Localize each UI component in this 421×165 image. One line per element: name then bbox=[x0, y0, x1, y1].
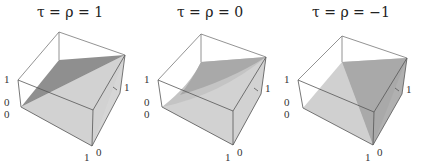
panel-comonotonic: τ = ρ = 1 1 0 0 1 0 1 bbox=[0, 0, 140, 165]
surface-plot: 1 0 0 1 0 1 bbox=[281, 0, 421, 165]
x-tick-0: 0 bbox=[284, 108, 290, 120]
surface-plot: 1 0 0 1 0 1 bbox=[140, 0, 280, 165]
y-tick-1: 1 bbox=[265, 82, 271, 94]
z-tick-0: 0 bbox=[4, 96, 10, 108]
panel-independence: τ = ρ = 0 1 0 0 1 0 1 bbox=[140, 0, 280, 165]
z-tick-1: 1 bbox=[4, 73, 10, 85]
panel-countermonotonic: τ = ρ = −1 1 0 0 1 0 1 bbox=[281, 0, 421, 165]
x-tick-1: 1 bbox=[365, 151, 371, 163]
x-tick-0: 0 bbox=[4, 108, 10, 120]
y-tick-0: 0 bbox=[96, 146, 102, 158]
y-tick-1: 1 bbox=[124, 81, 130, 93]
x-tick-1: 1 bbox=[225, 151, 231, 163]
x-tick-0: 0 bbox=[144, 108, 150, 120]
x-tick-1: 1 bbox=[84, 151, 90, 163]
z-tick-0: 0 bbox=[144, 96, 150, 108]
y-tick-0: 0 bbox=[377, 146, 383, 158]
y-tick-1: 1 bbox=[406, 83, 412, 95]
z-tick-1: 1 bbox=[144, 73, 150, 85]
z-tick-1: 1 bbox=[284, 73, 290, 85]
z-tick-0: 0 bbox=[284, 96, 290, 108]
surface-plot: 1 0 0 1 0 1 bbox=[0, 0, 140, 165]
y-tick-0: 0 bbox=[237, 146, 243, 158]
